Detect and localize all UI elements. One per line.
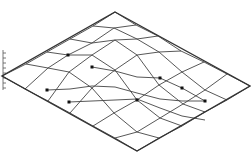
vertex-marker: [181, 87, 184, 90]
vertex-marker: [136, 99, 139, 102]
wireframe-canvas: [0, 0, 251, 166]
vertex-marker: [91, 66, 94, 69]
vertex-marker: [67, 54, 70, 57]
vertex-marker: [204, 100, 207, 103]
outline-border: [2, 12, 250, 151]
mesh-row: [93, 62, 204, 126]
vertical-axis: [3, 50, 6, 90]
outline-diamond: [2, 12, 250, 151]
mesh-grid: [2, 12, 250, 151]
vertex-marker: [68, 101, 71, 104]
mesh-row: [25, 25, 136, 89]
surface-plot: [0, 0, 251, 166]
contour-line: [69, 99, 205, 120]
mesh-row: [115, 74, 227, 138]
vertex-marker: [159, 77, 162, 80]
vertex-marker: [46, 89, 49, 92]
vertex-markers: [46, 54, 207, 104]
